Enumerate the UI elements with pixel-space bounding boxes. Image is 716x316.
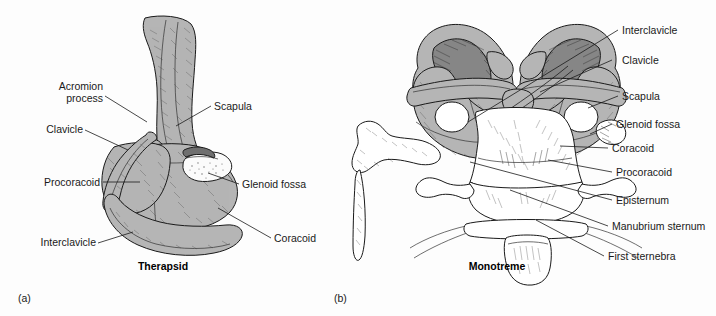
- label-acromion-line1: Acromion: [59, 80, 104, 92]
- label-interclavicle-a: Interclavicle: [41, 236, 97, 248]
- label-coracoid-a: Coracoid: [274, 232, 316, 244]
- label-clavicle-b: Clavicle: [622, 54, 659, 66]
- caption-monotreme: Monotreme: [469, 260, 526, 272]
- therapsid-glenoid-fossa: [183, 147, 232, 182]
- label-scapula-b: Scapula: [622, 90, 660, 102]
- monotreme-episternum: [470, 108, 582, 193]
- label-episternum-b: Episternum: [616, 194, 669, 206]
- label-scapula-a: Scapula: [214, 100, 252, 112]
- panel-a-illustration: Acromion process Clavicle Procoracoid In…: [0, 0, 716, 316]
- label-procoracoid-b: Procoracoid: [616, 166, 672, 178]
- label-interclavicle-b: Interclavicle: [622, 24, 678, 36]
- label-acromion-line2: process: [66, 92, 103, 104]
- leader-acromion: [105, 96, 147, 122]
- figure-root: Acromion process Clavicle Procoracoid In…: [0, 0, 716, 316]
- panel-id-b: (b): [334, 292, 347, 304]
- label-first-sternebra-b: First sternebra: [608, 250, 676, 262]
- leader-clavicle-a: [85, 130, 128, 150]
- label-clavicle-a: Clavicle: [46, 123, 83, 135]
- label-procoracoid-a: Procoracoid: [44, 176, 100, 188]
- caption-therapsid: Therapsid: [138, 260, 188, 272]
- label-manubrium-sternum-b: Manubrium sternum: [612, 220, 706, 232]
- label-coracoid-b: Coracoid: [612, 142, 654, 154]
- label-glenoid-fossa-b: Glenoid fossa: [616, 118, 680, 130]
- label-glenoid-fossa-a: Glenoid fossa: [242, 178, 306, 190]
- panel-id-a: (a): [18, 292, 31, 304]
